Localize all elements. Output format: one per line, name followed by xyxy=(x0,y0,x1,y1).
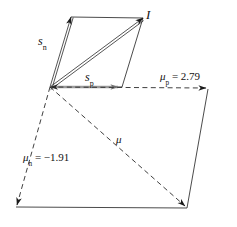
label-mu-p-subscript: p xyxy=(166,79,170,87)
vector-mu-n xyxy=(17,87,50,205)
label-mu-p: μp = 2.79 xyxy=(160,71,200,82)
label-mu-n-value: = −1.91 xyxy=(35,151,69,163)
vector-diagram-figure: I sn sp μp = 2.79 μn = −1.91 μ xyxy=(0,0,237,227)
label-s-p: sp xyxy=(85,71,94,83)
label-s-n: sn xyxy=(38,35,47,47)
label-s-n-subscript: n xyxy=(43,43,47,52)
vector-mu xyxy=(50,87,185,206)
vector-s-n xyxy=(50,17,73,88)
label-mu-n-symbol: μ xyxy=(23,151,29,163)
label-mu-p-value: = 2.79 xyxy=(172,70,200,82)
label-mu: μ xyxy=(116,134,122,145)
label-s-p-symbol: s xyxy=(85,70,90,84)
label-s-n-symbol: s xyxy=(38,34,43,48)
vector-diagram-canvas xyxy=(0,0,237,227)
label-current-vector: I xyxy=(146,8,150,21)
lower-right-edge xyxy=(187,89,208,208)
vector-I-stroke-a xyxy=(50,18,143,87)
label-mu-symbol: μ xyxy=(116,133,122,145)
label-mu-n: μn = −1.91 xyxy=(23,152,69,163)
lower-bottom-edge xyxy=(16,207,187,208)
label-s-p-subscript: p xyxy=(90,79,94,88)
vector-I xyxy=(50,18,144,90)
vector-I-stroke-b xyxy=(51,21,144,90)
label-mu-p-symbol: μ xyxy=(160,70,166,82)
upper-top-edge xyxy=(71,17,143,18)
label-mu-n-subscript: n xyxy=(29,160,33,168)
